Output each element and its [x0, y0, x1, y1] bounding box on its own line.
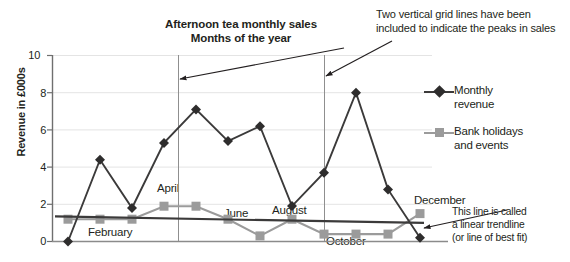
trendline-leader-arrow	[424, 210, 507, 228]
y-axis	[47, 55, 53, 242]
legend-label-monthly-revenue-line1: Monthly	[454, 84, 493, 96]
legend-label-bank-holidays-line1: Bank holidays	[454, 125, 523, 137]
legend-item-bank-holidays[interactable]: Bank holidays and events	[424, 125, 570, 152]
legend-label-monthly-revenue-line2: revenue	[454, 98, 494, 110]
legend-label-bank-holidays-line2: and events	[454, 139, 508, 151]
legend-label-bank-holidays: Bank holidays and events	[454, 125, 523, 152]
legend-item-monthly-revenue[interactable]: Monthly revenue	[424, 84, 570, 111]
vertical-gridlines	[179, 55, 325, 241]
square-icon	[424, 126, 454, 140]
title-leader-arrow	[180, 48, 344, 79]
gridlines-leader-arrow	[326, 41, 392, 76]
chart-screenshot: Afternoon tea monthly sales Months of th…	[0, 0, 570, 262]
horizontal-gridlines	[52, 56, 432, 205]
diamond-icon	[424, 85, 454, 99]
legend-label-monthly-revenue: Monthly revenue	[454, 84, 494, 111]
chart-legend: Monthly revenue Bank holidays and events	[424, 84, 570, 166]
